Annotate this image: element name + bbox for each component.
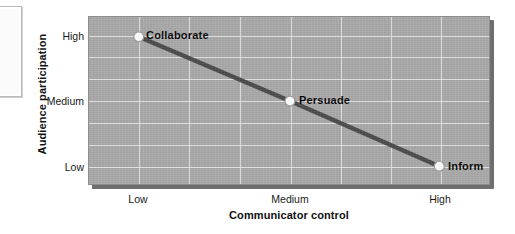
data-series-line [89, 17, 489, 184]
y-axis-ticks: High Medium Low [22, 0, 84, 234]
data-point-persuade[interactable] [285, 96, 295, 106]
data-label-inform: Inform [448, 160, 483, 172]
data-label-persuade: Persuade [299, 94, 350, 106]
plot-area: Collaborate Persuade Inform [88, 16, 490, 185]
data-point-inform[interactable] [434, 161, 444, 171]
x-tick-medium: Medium [250, 193, 330, 205]
y-tick-high: High [24, 30, 84, 42]
x-tick-low: Low [98, 193, 178, 205]
data-point-collaborate[interactable] [134, 32, 144, 42]
x-tick-high: High [400, 193, 480, 205]
y-tick-medium: Medium [24, 95, 84, 107]
chart-figure: Audience participation High Medium Low [0, 0, 515, 234]
x-axis-title: Communicator control [88, 209, 490, 221]
adjacent-panel-edge [0, 6, 22, 97]
data-label-collaborate: Collaborate [146, 29, 209, 41]
y-tick-low: Low [24, 161, 84, 173]
